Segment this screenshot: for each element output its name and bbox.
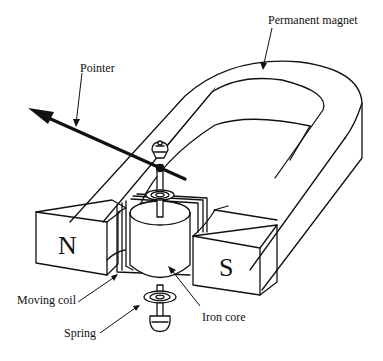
moving-coil-meter-diagram: Permanent magnet Pointer Moving coil Spr… <box>0 0 383 361</box>
pole-label-south: S <box>219 255 233 281</box>
bottom-spring-and-pivot <box>144 285 176 332</box>
label-spring: Spring <box>64 327 96 339</box>
label-iron-core: Iron core <box>202 311 246 323</box>
label-permanent-magnet: Permanent magnet <box>268 14 358 26</box>
label-pointer: Pointer <box>80 62 115 74</box>
permanent-magnet <box>70 61 362 290</box>
label-moving-coil: Moving coil <box>17 294 76 306</box>
pole-label-north: N <box>58 233 77 259</box>
